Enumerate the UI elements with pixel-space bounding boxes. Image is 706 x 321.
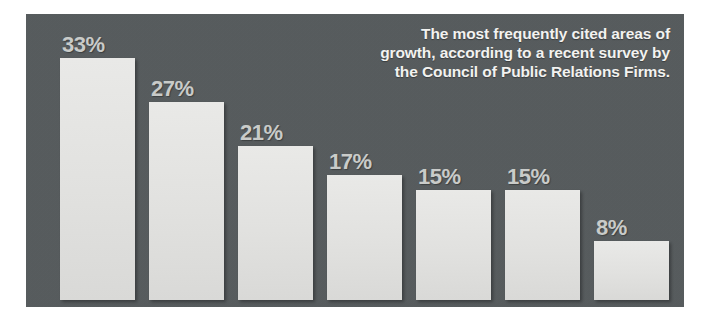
bar-value-label: 27% (151, 78, 194, 100)
bar-group: 8%financialproductsandservices (594, 211, 669, 300)
bar-group: 33%health care (60, 28, 135, 300)
bar-value-label: 15% (507, 166, 550, 188)
bar-rect: financialproductsandservices (594, 241, 669, 300)
bar-rect: technology (238, 146, 313, 300)
bar-chart-figure: The most frequently cited areas of growt… (0, 0, 706, 321)
bar-rect: governmentand non-profit (505, 190, 580, 300)
bar-rect: consumer products andservices (149, 102, 224, 300)
bar-group: 15%governmentand non-profit (505, 160, 580, 300)
bar-group: 27%consumer products andservices (149, 72, 224, 300)
bar-group: 21%technology (238, 116, 313, 300)
bar-group: 15%professionalservices (416, 160, 491, 300)
bar-value-label: 21% (240, 122, 283, 144)
bar-value-label: 17% (329, 151, 372, 173)
plot-area: 33%health care27%consumer products andse… (26, 14, 684, 307)
bar-value-label: 15% (418, 166, 461, 188)
bar-group: 17%industrialproducts andservices (327, 145, 402, 300)
bar-rect: health care (60, 58, 135, 300)
chart-panel: The most frequently cited areas of growt… (26, 14, 684, 307)
bar-rect: professionalservices (416, 190, 491, 300)
bar-value-label: 33% (62, 34, 105, 56)
bar-value-label: 8% (596, 217, 627, 239)
bar-rect: industrialproducts andservices (327, 175, 402, 300)
